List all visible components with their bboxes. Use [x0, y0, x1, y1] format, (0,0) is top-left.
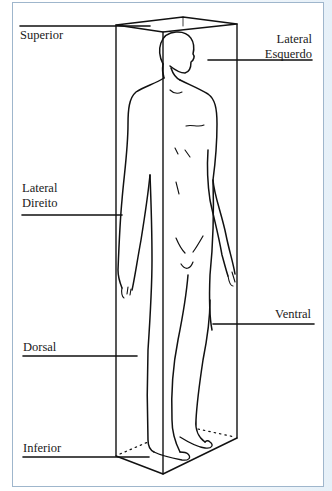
label-lateral-direito-line2: Direito: [22, 196, 57, 211]
box-edges: [116, 24, 237, 474]
label-lateral-esquerdo-line2: Esquerdo: [258, 47, 312, 62]
label-inferior: Inferior: [23, 441, 61, 456]
label-ventral: Ventral: [275, 307, 311, 322]
label-lateral-esquerdo-line1: Lateral: [258, 32, 312, 47]
anatomical-box-diagram: [0, 0, 332, 491]
label-superior: Superior: [20, 28, 63, 43]
box-hidden-edges: [120, 429, 235, 454]
box-top-face: [116, 17, 237, 32]
label-lateral-direito-line1: Lateral: [22, 181, 57, 196]
leader-lines: [20, 26, 314, 457]
label-lateral-esquerdo: Lateral Esquerdo: [258, 32, 312, 62]
label-dorsal: Dorsal: [23, 340, 56, 355]
human-figure: [118, 32, 235, 460]
label-lateral-direito: Lateral Direito: [22, 181, 57, 211]
